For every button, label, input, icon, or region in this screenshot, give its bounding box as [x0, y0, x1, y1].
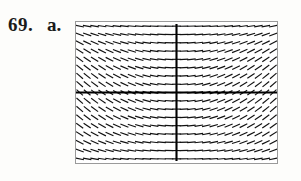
slope-segment: [128, 34, 136, 35]
slope-segment: [105, 149, 113, 151]
slope-segment: [217, 83, 225, 86]
slope-segment: [217, 42, 225, 44]
slope-segment: [106, 66, 114, 70]
slope-segment: [91, 98, 98, 103]
slope-segment: [224, 158, 233, 159]
slope-segment: [157, 109, 166, 110]
slope-segment: [113, 115, 121, 119]
slope-segment: [232, 115, 240, 119]
slope-segment: [106, 57, 114, 61]
slope-segment: [210, 116, 218, 119]
slope-segment: [217, 74, 225, 77]
slope-segment: [121, 99, 129, 103]
slope-segment: [120, 42, 128, 44]
slope-segment: [83, 41, 91, 45]
slope-segment: [120, 141, 128, 143]
slope-segment: [135, 34, 144, 35]
slope-segment: [247, 149, 255, 151]
slope-segment: [106, 115, 114, 119]
slope-segment: [225, 66, 233, 69]
slope-segment: [76, 132, 83, 137]
slope-segment: [255, 132, 263, 136]
slope-segment: [91, 107, 98, 112]
slope-segment: [187, 100, 196, 101]
slope-segment: [195, 75, 203, 77]
slope-segment: [128, 66, 136, 69]
slope-segment: [195, 117, 203, 119]
slope-segment: [128, 83, 136, 86]
slope-segment: [255, 123, 262, 128]
slope-segment: [210, 133, 218, 135]
axes-group: [76, 24, 277, 161]
slope-segment: [113, 150, 121, 152]
slope-segment: [157, 100, 166, 101]
slope-segment: [76, 123, 83, 128]
slope-segment: [239, 26, 248, 27]
slope-segment: [262, 106, 269, 111]
slope-segment: [210, 125, 218, 127]
slope-segment: [195, 100, 203, 102]
slope-segment: [247, 41, 255, 44]
slope-segment: [120, 66, 128, 69]
slope-segment: [187, 142, 196, 143]
slope-segment: [262, 149, 270, 152]
slope-segment: [135, 66, 143, 69]
slope-segment: [98, 141, 106, 144]
slope-segment: [209, 26, 218, 27]
slope-segment: [120, 158, 129, 159]
slope-segment: [90, 158, 98, 159]
slope-segment: [262, 115, 269, 120]
slope-segment: [270, 57, 277, 62]
slope-segment: [217, 99, 225, 102]
slope-segment: [232, 124, 240, 128]
slope-segment: [247, 65, 254, 70]
slope-segment: [165, 67, 174, 68]
slope-segment: [157, 75, 166, 76]
slope-segment: [255, 115, 262, 120]
slope-segment: [143, 67, 151, 69]
slope-segment: [269, 140, 277, 144]
slope-segment: [187, 150, 196, 151]
slope-segment: [105, 41, 113, 44]
slope-segment: [255, 107, 262, 112]
slope-segment: [150, 83, 158, 85]
slope-segment: [195, 125, 203, 126]
slope-segment: [195, 67, 203, 69]
slope-segment: [84, 65, 91, 70]
slope-segment: [217, 124, 225, 127]
slope-segment: [84, 81, 91, 86]
slope-segment: [91, 115, 98, 120]
slope-segment: [76, 140, 84, 144]
exercise-number-label: 69.: [8, 14, 33, 36]
slope-segment: [135, 75, 143, 78]
slope-segment: [105, 158, 114, 159]
slope-segment: [224, 141, 232, 143]
slope-segment: [113, 74, 121, 78]
slope-segment: [157, 51, 166, 52]
slope-segment: [255, 49, 263, 53]
slope-segment: [210, 83, 218, 86]
slope-segment: [217, 116, 225, 119]
slope-segment: [143, 100, 151, 102]
slope-segment: [262, 49, 269, 53]
slope-segment: [217, 158, 226, 159]
slope-segment: [247, 49, 255, 53]
slope-segment: [209, 34, 218, 35]
slope-segment: [84, 115, 91, 120]
slope-segment: [91, 65, 98, 70]
slope-segment: [150, 150, 159, 151]
slope-segment: [225, 99, 233, 103]
slope-segment: [128, 158, 137, 159]
slope-segment: [254, 25, 262, 26]
slope-segment: [195, 42, 204, 43]
slope-segment: [84, 73, 91, 78]
slope-segment: [225, 50, 233, 53]
slope-segment: [187, 125, 196, 126]
slope-segment: [106, 99, 113, 103]
slope-segment: [135, 133, 143, 135]
slope-segment: [165, 117, 174, 118]
slope-segment: [217, 34, 225, 35]
slope-segment: [270, 98, 276, 104]
slope-segment: [83, 49, 90, 53]
slope-segment: [113, 124, 121, 128]
